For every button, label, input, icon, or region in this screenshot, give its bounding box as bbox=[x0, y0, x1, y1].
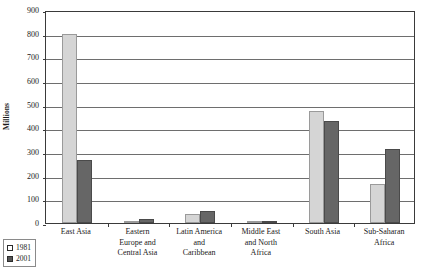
bar-group bbox=[247, 12, 277, 223]
bar-2001[interactable] bbox=[385, 149, 400, 223]
bar-2001[interactable] bbox=[262, 221, 277, 223]
legend-swatch-2001-icon bbox=[7, 256, 13, 262]
bar-1981[interactable] bbox=[247, 221, 262, 223]
bars-layer bbox=[46, 12, 414, 223]
legend-swatch-1981-icon bbox=[7, 245, 13, 251]
bar-1981[interactable] bbox=[62, 34, 77, 223]
plot-area bbox=[45, 11, 415, 224]
y-axis-title-text: Millions bbox=[3, 102, 12, 129]
x-axis-category-label-line: Africa bbox=[346, 238, 421, 249]
y-axis-tick-label: 400 bbox=[27, 125, 39, 133]
x-axis-category-label-line: Africa bbox=[223, 248, 299, 259]
y-axis-tick-label: 200 bbox=[27, 173, 39, 181]
bar-group bbox=[62, 12, 92, 223]
y-axis-tick-label: 700 bbox=[27, 54, 39, 62]
bar-1981[interactable] bbox=[309, 111, 324, 223]
bar-group bbox=[185, 12, 215, 223]
bar-1981[interactable] bbox=[124, 221, 139, 223]
y-axis-tick-label: 900 bbox=[27, 7, 39, 15]
x-axis-category-label-line: and North bbox=[223, 238, 299, 249]
bar-2001[interactable] bbox=[77, 160, 92, 223]
x-axis-category-label-line: Sub-Saharan bbox=[346, 227, 421, 238]
y-axis-tick-label: 500 bbox=[27, 102, 39, 110]
x-axis-category-label: Sub-SaharanAfrica bbox=[346, 227, 421, 248]
y-axis-tick-label: 300 bbox=[27, 149, 39, 157]
y-axis-tick-labels: 9008007006005004003002001000 bbox=[14, 0, 43, 224]
legend-item[interactable]: 2001 bbox=[7, 253, 31, 264]
bar-chart-figure: Millions 9008007006005004003002001000 Ea… bbox=[0, 0, 421, 274]
bar-2001[interactable] bbox=[200, 211, 215, 223]
x-axis-category-labels: East AsiaEasternEurope andCentral AsiaLa… bbox=[45, 227, 415, 271]
y-axis-title: Millions bbox=[0, 86, 14, 146]
y-axis-tick-label: 100 bbox=[27, 196, 39, 204]
bar-2001[interactable] bbox=[324, 121, 339, 223]
legend-item[interactable]: 1981 bbox=[7, 242, 31, 253]
bar-1981[interactable] bbox=[370, 184, 385, 223]
bar-group bbox=[124, 12, 154, 223]
bar-2001[interactable] bbox=[139, 219, 154, 223]
y-axis-tick-label: 800 bbox=[27, 31, 39, 39]
y-axis-tickmark bbox=[43, 225, 46, 226]
bar-1981[interactable] bbox=[185, 214, 200, 223]
legend-label: 2001 bbox=[16, 255, 31, 263]
bar-group bbox=[309, 12, 339, 223]
y-axis-tick-label: 600 bbox=[27, 78, 39, 86]
bar-group bbox=[370, 12, 400, 223]
legend-label: 1981 bbox=[16, 244, 31, 252]
chart-legend: 1981 2001 bbox=[3, 239, 36, 267]
